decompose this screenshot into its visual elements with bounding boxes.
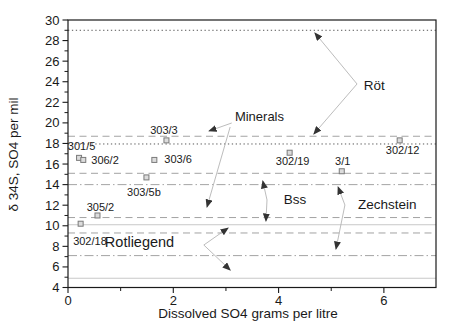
y-tick-label: 24 (45, 74, 59, 89)
data-point-label-306/2: 306/2 (91, 154, 119, 166)
y-tick-label: 10 (45, 218, 59, 233)
data-point-label-305/2: 305/2 (87, 201, 115, 213)
y-tick-label: 8 (52, 239, 59, 254)
y-tick-label: 14 (45, 177, 59, 192)
data-point-label-303/3: 303/3 (150, 124, 178, 136)
data-point-305/2 (95, 213, 100, 218)
y-tick-label: 6 (52, 259, 59, 274)
data-point-label-301/5: 301/5 (68, 140, 96, 152)
annotation-arrow-bss (263, 181, 267, 200)
data-point-306/2 (81, 157, 86, 162)
data-point-303/6 (152, 157, 157, 162)
annotation-arrow-röt (315, 33, 357, 84)
data-point-302/18 (78, 221, 83, 226)
data-point-label-303/6: 303/6 (164, 153, 192, 165)
data-point-303/3 (164, 138, 169, 143)
annotation-arrow-röt (314, 84, 357, 134)
annotation-arrow-rotliegend (204, 228, 228, 245)
annotation-label-minerals: Minerals (235, 109, 285, 124)
y-tick-label: 4 (52, 280, 59, 295)
data-point-302/12 (397, 138, 402, 143)
data-point-label-3/1: 3/1 (335, 155, 350, 167)
x-axis-title: Dissolved SO4 grams per litre (98, 306, 398, 321)
data-point-label-302/18: 302/18 (73, 235, 107, 247)
data-point-label-302/19: 302/19 (276, 155, 310, 167)
y-tick-label: 22 (45, 95, 59, 110)
data-point-label-302/12: 302/12 (386, 144, 420, 156)
y-tick-label: 18 (45, 136, 59, 151)
annotation-arrow-rotliegend (204, 245, 230, 270)
y-tick-label: 30 (45, 13, 59, 28)
y-tick-label: 20 (45, 115, 59, 130)
annotation-arrow-zechstein (338, 187, 345, 205)
y-tick-label: 26 (45, 54, 59, 69)
annotation-arrow-zechstein (336, 205, 345, 249)
annotation-label-rotliegend: Rotliegend (105, 234, 174, 250)
x-tick-label: 0 (64, 293, 71, 308)
data-point-label-303/5b: 303/5b (127, 186, 161, 198)
y-tick-label: 12 (45, 198, 59, 213)
annotation-label-bss: Bss (284, 192, 307, 207)
data-point-303/5b (144, 175, 149, 180)
data-point-3/1 (339, 169, 344, 174)
annotation-label-röt: Röt (364, 78, 385, 93)
annotation-arrow-minerals (209, 123, 232, 131)
y-tick-label: 28 (45, 33, 59, 48)
y-tick-label: 16 (45, 157, 59, 172)
annotation-label-zechstein: Zechstein (358, 197, 417, 212)
annotation-arrow-minerals (207, 127, 230, 207)
y-axis-title: δ 34S, SO4 per mil (6, 55, 23, 255)
figure-scatter-plot: 02464681012141618202224262830301/5306/23… (0, 0, 452, 335)
plot-area: 02464681012141618202224262830301/5306/23… (0, 0, 452, 335)
